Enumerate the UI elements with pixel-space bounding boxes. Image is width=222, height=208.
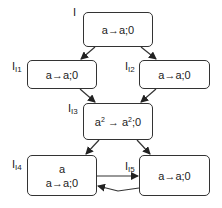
node-label-I5: II5 [125, 160, 135, 174]
node-text: a→a;0 [102, 23, 134, 37]
node-label-I3: II3 [68, 102, 78, 116]
node-I3: a2 → a2;0 [83, 103, 153, 140]
node-text: a→a;0 [158, 68, 190, 82]
edge-I-I2 [141, 47, 156, 59]
node-text: a→a;0 [158, 169, 190, 183]
edge-I5-I4 [98, 186, 139, 191]
node-text-line1: a [59, 162, 65, 176]
node-label-I2: II2 [125, 60, 135, 74]
node-text: a→a;0 [46, 68, 78, 82]
edge-I3-I4 [86, 140, 99, 154]
node-I2: a→a;0 [139, 60, 210, 89]
node-label-I1: II1 [12, 60, 22, 74]
node-text: a2 → a2;0 [95, 115, 141, 129]
edge-I-I1 [81, 47, 95, 59]
node-label-I: I [73, 6, 76, 18]
edge-I1-I3 [80, 89, 95, 102]
node-text-line2: a→a;0 [46, 176, 78, 190]
node-I: a→a;0 [83, 12, 153, 47]
node-label-I4: II4 [12, 158, 22, 172]
node-I4: a a→a;0 [27, 155, 97, 196]
node-I1: a→a;0 [27, 60, 97, 89]
edge-I3-I5 [137, 140, 150, 154]
node-I5: a→a;0 [139, 155, 210, 196]
edge-I2-I3 [141, 89, 156, 102]
